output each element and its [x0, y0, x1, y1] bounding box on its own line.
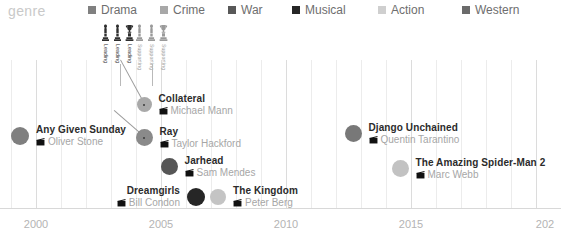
genre-dot[interactable] [210, 189, 226, 205]
genre-dot[interactable] [11, 127, 29, 145]
legend-item-western[interactable]: Western [462, 3, 519, 17]
genre-dot[interactable] [345, 125, 362, 142]
film-title: Jarhead [185, 155, 224, 167]
film-label: Django UnchainedQuentin Tarantino [369, 122, 460, 146]
film-director-row: Sam Mendes [185, 167, 256, 179]
legend-swatch-icon [462, 6, 470, 14]
film-title: Dreamgirls [127, 185, 180, 197]
legend-item-label: Western [475, 3, 519, 17]
film-director-row: Marc Webb [416, 169, 479, 181]
film-director-name: Quentin Tarantino [381, 134, 460, 146]
film-director-row: Bill Condon [117, 197, 180, 209]
film-title: Ray [160, 126, 179, 138]
clapperboard-icon [185, 168, 194, 177]
film-director-name: Michael Mann [171, 105, 233, 117]
oscar-statuette-icon [135, 24, 144, 41]
legend-swatch-icon [88, 6, 96, 14]
award-column[interactable]: Supporting [157, 24, 170, 41]
legend-item-action[interactable]: Action [378, 3, 424, 17]
film-point[interactable]: RayTaylor Hackford [136, 126, 241, 150]
legend-item-label: Musical [305, 3, 346, 17]
legend-item-musical[interactable]: Musical [292, 3, 346, 17]
award-markers: LeadingLeadingLeadingSupportingSupportin… [0, 24, 561, 84]
genre-dot[interactable] [392, 160, 409, 177]
legend-item-label: War [241, 3, 263, 17]
film-point[interactable]: Django UnchainedQuentin Tarantino [345, 122, 460, 146]
film-title: Django Unchained [369, 122, 458, 134]
genre-dot[interactable] [161, 158, 178, 175]
dot-center-marker [143, 137, 145, 139]
film-director-row: Quentin Tarantino [369, 134, 460, 146]
genre-dot[interactable] [187, 188, 205, 206]
legend-swatch-icon [228, 6, 236, 14]
film-title: Collateral [159, 93, 206, 105]
film-director-name: Oliver Stone [48, 136, 103, 148]
film-director-name: Taylor Hackford [172, 138, 241, 150]
film-label: Any Given SundayOliver Stone [36, 124, 126, 148]
film-director-name: Marc Webb [428, 169, 479, 181]
x-axis-tick-label: 2015 [399, 218, 423, 230]
award-category-label: Supporting [137, 44, 143, 70]
dot-center-marker [143, 104, 145, 106]
oscar-statuette-icon [113, 24, 122, 41]
film-director-row: Taylor Hackford [160, 138, 241, 150]
film-point[interactable]: Any Given SundayOliver Stone [11, 124, 126, 148]
legend-swatch-icon [160, 6, 168, 14]
plot-area: 2000200520102015202 LeadingLeadingLeadin… [0, 24, 561, 235]
timeline-chart: genre DramaCrimeWarMusicalActionWestern … [0, 0, 561, 235]
clapperboard-icon [233, 198, 242, 207]
legend-title: genre [8, 3, 46, 19]
award-category-label: Leading [127, 44, 133, 63]
film-director-name: Bill Condon [129, 197, 180, 209]
film-point[interactable]: JarheadSam Mendes [161, 155, 256, 179]
award-category-label: Leading [103, 44, 109, 63]
film-label: The Amazing Spider-Man 2Marc Webb [416, 157, 546, 181]
film-point[interactable]: The KingdomPeter Berg [210, 185, 298, 209]
film-label: The KingdomPeter Berg [233, 185, 298, 209]
genre-dot[interactable] [137, 97, 152, 112]
legend-item-war[interactable]: War [228, 3, 263, 17]
film-director-row: Michael Mann [159, 105, 233, 117]
film-label: RayTaylor Hackford [160, 126, 241, 150]
legend-item-label: Action [391, 3, 424, 17]
legend-swatch-icon [292, 6, 300, 14]
clapperboard-icon [36, 137, 45, 146]
film-label: JarheadSam Mendes [185, 155, 256, 179]
oscar-statuette-icon [147, 24, 156, 41]
x-axis-tick-label: 2000 [24, 218, 48, 230]
genre-legend: genre DramaCrimeWarMusicalActionWestern [0, 0, 561, 24]
legend-item-drama[interactable]: Drama [88, 3, 137, 17]
award-category-label: Supporting [161, 44, 167, 70]
film-director-row: Oliver Stone [36, 136, 103, 148]
legend-item-label: Drama [101, 3, 137, 17]
film-director-name: Sam Mendes [197, 167, 256, 179]
award-stem-line [120, 64, 121, 86]
x-axis-tick-label: 202 [536, 218, 554, 230]
film-title: Any Given Sunday [36, 124, 126, 136]
award-stem-line [152, 64, 153, 86]
film-label: DreamgirlsBill Condon [117, 185, 180, 209]
film-title: The Amazing Spider-Man 2 [416, 157, 546, 169]
film-point[interactable]: The Amazing Spider-Man 2Marc Webb [392, 157, 546, 181]
genre-dot[interactable] [136, 129, 153, 146]
film-title: The Kingdom [233, 185, 298, 197]
legend-item-label: Crime [173, 3, 205, 17]
film-director-row: Peter Berg [233, 197, 293, 209]
clapperboard-icon [160, 139, 169, 148]
oscar-statuette-icon [101, 24, 110, 41]
oscar-trophy-icon [159, 24, 168, 41]
film-label: CollateralMichael Mann [159, 93, 233, 117]
film-point[interactable]: DreamgirlsBill Condon [117, 185, 205, 209]
x-axis-tick-label: 2005 [149, 218, 173, 230]
clapperboard-icon [369, 135, 378, 144]
clapperboard-icon [416, 170, 425, 179]
clapperboard-icon [117, 198, 126, 207]
film-director-name: Peter Berg [245, 197, 293, 209]
legend-swatch-icon [378, 6, 386, 14]
clapperboard-icon [159, 106, 168, 115]
legend-item-crime[interactable]: Crime [160, 3, 205, 17]
x-axis-tick-label: 2010 [274, 218, 298, 230]
film-point[interactable]: CollateralMichael Mann [137, 93, 233, 117]
